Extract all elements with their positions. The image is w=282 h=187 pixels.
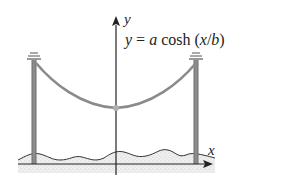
y-axis-arrow-icon (112, 16, 120, 26)
equation-b: b (211, 31, 219, 48)
left-pole (27, 53, 41, 164)
right-insulator-icon (189, 53, 203, 59)
equation-x: x (199, 31, 207, 48)
x-axis-label: x (207, 142, 215, 158)
y-axis-label: y (122, 11, 131, 27)
equation-label: y = a cosh (x/b) (123, 31, 225, 49)
catenary-diagram: y x y = a cosh (x/b) (0, 0, 282, 187)
equation-func: cosh ( (157, 31, 200, 49)
equation-a: a (149, 31, 157, 48)
equation-eq: = (132, 31, 149, 48)
left-insulator-icon (27, 53, 41, 59)
equation-close: ) (219, 31, 224, 49)
vertex-point (113, 105, 119, 111)
